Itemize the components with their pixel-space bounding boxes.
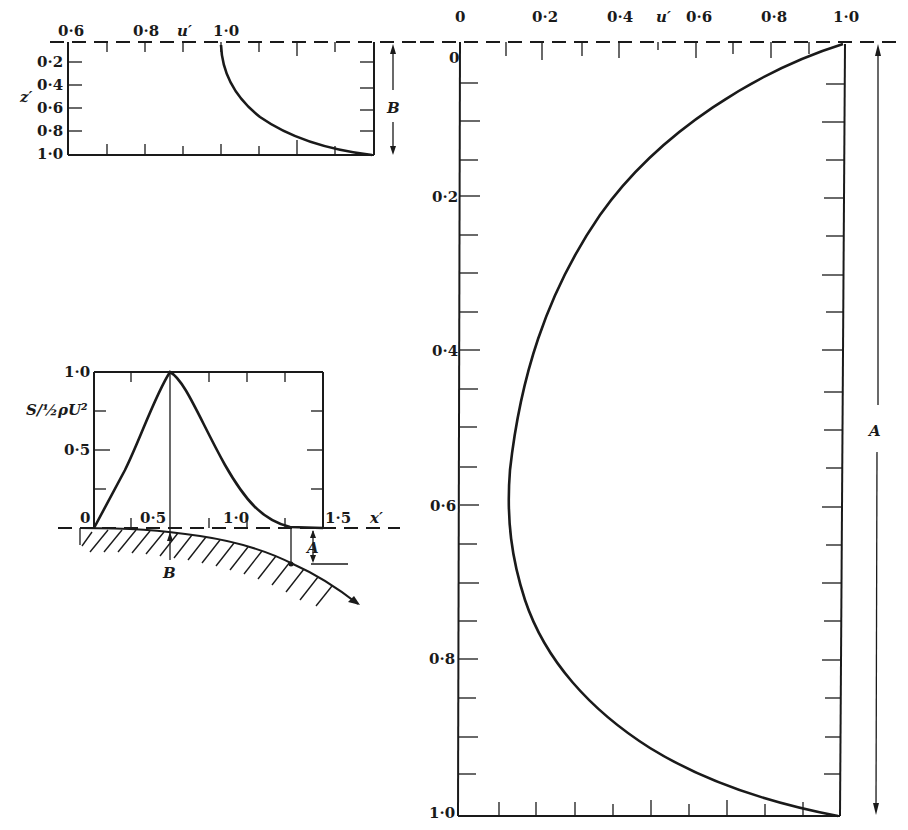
station-a-label: A (305, 539, 319, 557)
inset-y-tick-0-4: 0·4 (37, 76, 63, 94)
inset-y-tick-0-2: 0·2 (37, 53, 63, 71)
inset-left-ticks (68, 62, 82, 131)
main-left-axis (458, 42, 460, 816)
stress-right-ticks (307, 411, 323, 489)
inset-x-tick-0-6: 0·6 (58, 22, 84, 40)
inset-b-label: B (386, 99, 400, 117)
main-bottom-ticks (499, 800, 803, 816)
main-x-tick-0-2: 0·2 (532, 8, 558, 26)
profile-b-curve (221, 45, 372, 155)
main-y-tick-0-4: 0·4 (432, 342, 458, 360)
station-a-marker: A (289, 528, 349, 567)
main-x-tick-0-6: 0·6 (686, 8, 712, 26)
inset-bottom-ticks (107, 140, 335, 155)
main-y-tick-0-2: 0·2 (432, 188, 458, 206)
profile-a-curve (509, 44, 843, 816)
inset-velocity-chart: 0·6 0·8 u′ 1·0 0·2 0·4 z′ 0·6 0·8 1·0 B (19, 22, 420, 163)
stress-curve (94, 372, 323, 528)
stress-top-ticks (131, 372, 285, 382)
main-y-tick-0: 0 (449, 49, 459, 67)
main-x-axis-label: u′ (656, 8, 671, 26)
main-a-label: A (867, 422, 881, 440)
stress-y-tick-0-5: 0·5 (64, 441, 90, 459)
inset-y-axis-label: z′ (19, 88, 33, 106)
main-y-tick-0-6: 0·6 (430, 497, 456, 515)
inset-x-tick-1-0: 1·0 (213, 22, 239, 40)
inset-b-bracket: B (386, 44, 400, 155)
stress-y-axis-label: S/½ρU² (26, 401, 88, 419)
inset-y-tick-0-8: 0·8 (37, 122, 63, 140)
inset-x-axis-label: u′ (177, 22, 192, 40)
main-x-tick-0-8: 0·8 (761, 8, 787, 26)
stress-x-tick-0: 0 (80, 509, 90, 527)
inset-y-tick-1-0: 1·0 (37, 145, 63, 163)
inset-right-ticks (360, 62, 374, 131)
inset-y-tick-0-6: 0·6 (37, 99, 63, 117)
station-b-arrow (167, 532, 173, 541)
main-a-bracket: A (867, 44, 881, 815)
stress-left-ticks (94, 411, 110, 489)
main-x-tick-1-0: 1·0 (833, 8, 859, 26)
inset-x-tick-0-8: 0·8 (133, 22, 159, 40)
stress-x-tick-1-0: 1·0 (223, 509, 249, 527)
main-velocity-chart: 0 0·2 0·4 u′ 0·6 0·8 1·0 0 0·2 0·4 0·6 0… (420, 8, 900, 822)
stress-y-tick-1-0: 1·0 (64, 363, 90, 381)
stress-x-axis-label: x′ (369, 509, 383, 527)
main-y-tick-0-8: 0·8 (429, 650, 455, 668)
main-x-tick-0-4: 0·4 (607, 8, 633, 26)
figure-canvas: 0·6 0·8 u′ 1·0 0·2 0·4 z′ 0·6 0·8 1·0 B (0, 0, 908, 830)
main-y-tick-1-0: 1·0 (429, 804, 455, 822)
stress-x-tick-1-5: 1·5 (325, 509, 351, 527)
stress-x-tick-0-5: 0·5 (140, 509, 166, 527)
main-left-ticks (459, 83, 480, 774)
main-x-tick-0: 0 (455, 8, 465, 26)
stress-chart: 1·0 S/½ρU² 0·5 0 0·5 1·0 1·5 x′ (26, 363, 400, 606)
main-top-ticks (506, 42, 809, 60)
station-b-label: B (162, 564, 176, 582)
